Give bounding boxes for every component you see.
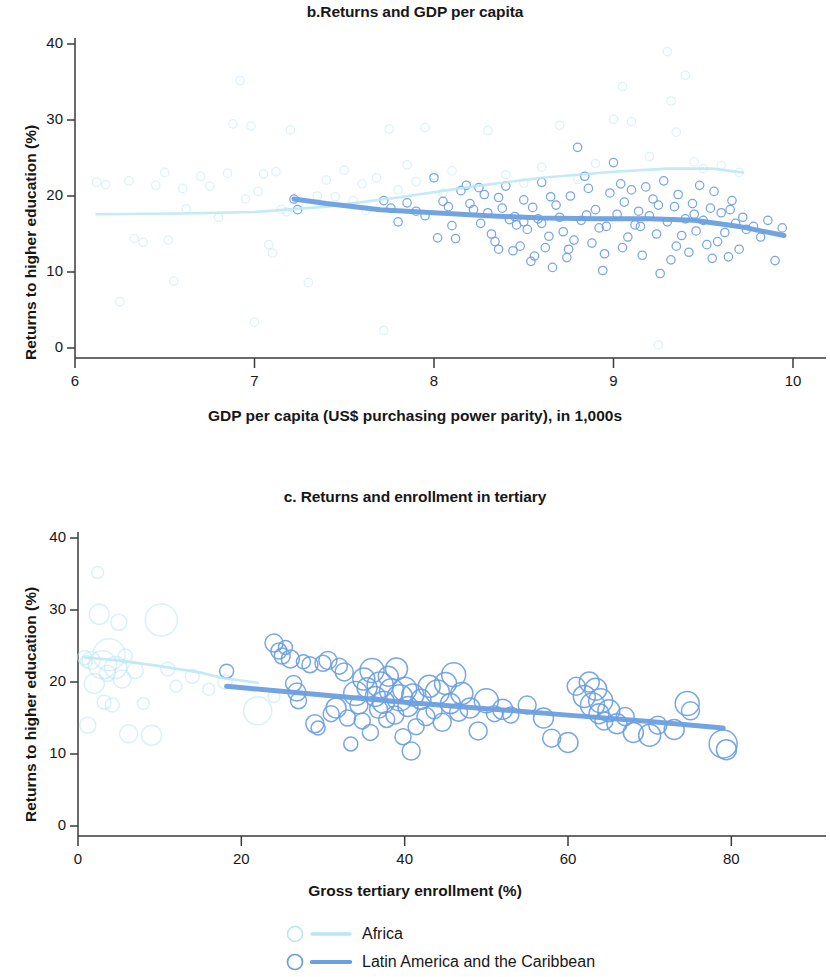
y-tick-label: 40 [32, 528, 66, 545]
x-tick-label: 10 [773, 372, 813, 389]
legend-open-circle-icon-latin-america [284, 951, 306, 973]
series-points-latin-america-and-the-caribbean [220, 634, 738, 760]
legend-open-circle-icon-africa [284, 923, 306, 945]
legend: Africa Latin America and the Caribbean [0, 920, 830, 976]
x-tick-label: 0 [58, 850, 98, 867]
legend-label-africa: Africa [362, 925, 403, 943]
x-tick-label: 9 [594, 372, 634, 389]
y-tick-label: 30 [32, 600, 66, 617]
y-tick-label: 20 [29, 186, 63, 203]
x-tick-label: 7 [235, 372, 275, 389]
x-tick-label: 8 [414, 372, 454, 389]
legend-item-latin-america[interactable]: Latin America and the Caribbean [0, 948, 830, 976]
legend-line-swatch-latin-america [310, 951, 352, 973]
series-points-latin-america-and-the-caribbean [290, 143, 787, 278]
panel-c-plot-area [0, 470, 830, 870]
x-tick-label: 40 [385, 850, 425, 867]
x-tick-label: 80 [711, 850, 751, 867]
legend-item-africa[interactable]: Africa [0, 920, 830, 948]
legend-label-latin-america: Latin America and the Caribbean [362, 953, 595, 971]
y-tick-label: 0 [29, 338, 63, 355]
chart-panel-b: b.Returns and GDP per capita Returns to … [0, 0, 830, 455]
series-points-africa [92, 47, 743, 349]
chart-panel-c: c. Returns and enrollment in tertiary Re… [0, 470, 830, 910]
y-tick-label: 0 [32, 816, 66, 833]
y-tick-label: 10 [32, 744, 66, 761]
y-tick-label: 30 [29, 110, 63, 127]
series-points-africa [78, 567, 280, 746]
y-tick-label: 20 [32, 672, 66, 689]
panel-b-x-axis-title: GDP per capita (US$ purchasing power par… [0, 407, 830, 425]
x-tick-label: 60 [548, 850, 588, 867]
panel-b-plot-area [0, 0, 830, 400]
y-tick-label: 10 [29, 262, 63, 279]
figure-returns-to-higher-education: b.Returns and GDP per capita Returns to … [0, 0, 830, 977]
x-tick-label: 6 [55, 372, 95, 389]
y-tick-label: 40 [29, 34, 63, 51]
x-tick-label: 20 [221, 850, 261, 867]
panel-c-x-axis-title: Gross tertiary enrollment (%) [0, 882, 830, 900]
legend-line-swatch-africa [310, 923, 352, 945]
